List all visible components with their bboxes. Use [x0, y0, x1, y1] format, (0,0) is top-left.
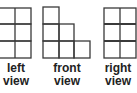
left-view-label: left view	[0, 62, 38, 88]
front-view-label: front view	[45, 62, 89, 88]
right-view-label: right view	[96, 62, 137, 88]
front-view-grid	[43, 7, 90, 58]
right-view-grid	[104, 8, 136, 58]
left-view-grid	[0, 8, 31, 58]
orthographic-views	[0, 0, 137, 60]
